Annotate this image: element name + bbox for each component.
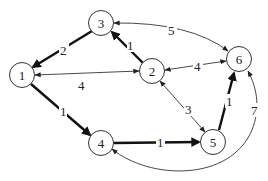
node-label-6: 6	[236, 52, 243, 67]
edge-weight-2-5: 3	[185, 102, 192, 117]
edge-weight-5-6: 1	[226, 94, 233, 109]
node-label-4: 4	[98, 136, 105, 151]
edge-weight-3-6: 5	[168, 23, 175, 38]
edge-1-2: 4	[35, 71, 139, 93]
node-label-2: 2	[149, 64, 156, 79]
node-4: 4	[89, 131, 114, 156]
edge-weight-1-2: 4	[78, 78, 85, 93]
edge-5-6: 1	[219, 73, 234, 130]
edge-weight-2-6: 4	[194, 59, 201, 74]
edge-4-5: 1	[114, 135, 199, 150]
edge-weight-1-4: 1	[60, 104, 67, 119]
edge-2-5: 3	[160, 81, 205, 132]
edge-weight-3-1: 2	[60, 43, 67, 58]
edge-weight-4-5: 1	[157, 135, 164, 150]
graph-diagram: 2 1 4 5 4 3 1 1	[0, 0, 268, 181]
edge-2-3: 1	[112, 32, 143, 63]
node-6: 6	[227, 47, 252, 72]
node-label-5: 5	[210, 135, 217, 150]
edge-2-6: 4	[165, 59, 226, 74]
edge-weight-2-3: 1	[127, 38, 134, 53]
edge-3-1: 2	[33, 31, 92, 67]
node-label-3: 3	[98, 16, 105, 31]
node-3: 3	[89, 11, 114, 36]
node-5: 5	[201, 130, 226, 155]
edge-weight-4-6: 7	[251, 103, 258, 118]
edge-4-6: 7	[112, 71, 260, 171]
node-1: 1	[10, 63, 35, 88]
node-label-1: 1	[19, 68, 26, 83]
node-2: 2	[140, 59, 165, 84]
